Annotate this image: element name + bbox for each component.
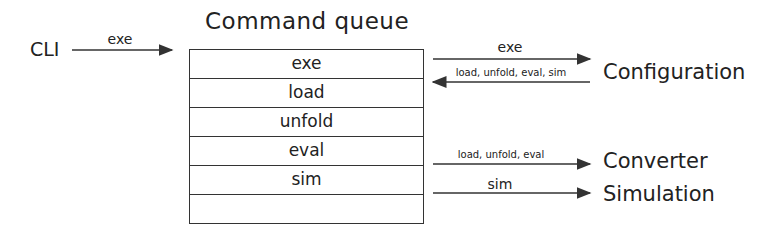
command-queue: exe load unfold eval sim — [189, 49, 424, 224]
cli-arrow-label: exe — [90, 31, 150, 47]
queue-item: load — [190, 79, 423, 108]
simulation-label: sim — [470, 176, 530, 192]
queue-item: sim — [190, 166, 423, 195]
config-out-label: exe — [470, 39, 550, 55]
queue-item: eval — [190, 137, 423, 166]
queue-item — [190, 195, 423, 223]
configuration-node: Configuration — [603, 60, 745, 84]
converter-node: Converter — [603, 149, 708, 173]
simulation-node: Simulation — [603, 182, 715, 206]
queue-item: exe — [190, 50, 423, 79]
queue-item: unfold — [190, 108, 423, 137]
cli-node: CLI — [30, 38, 59, 60]
queue-title: Command queue — [205, 8, 409, 34]
config-in-label: load, unfold, eval, sim — [436, 67, 586, 78]
converter-label: load, unfold, eval — [436, 149, 566, 160]
